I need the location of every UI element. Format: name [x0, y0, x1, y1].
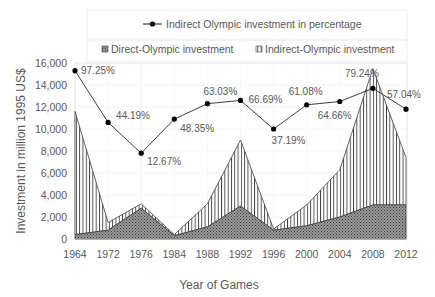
x-tick-label: 1996	[262, 248, 286, 260]
circle-marker-icon	[150, 21, 155, 26]
data-label: 63.03%	[203, 86, 237, 97]
legend: Indirect Olympic investment in percentag…	[87, 10, 407, 61]
y-tick-label: 6,000	[41, 167, 67, 179]
x-tick-label: 2000	[295, 248, 319, 260]
x-tick-label: 1984	[163, 248, 187, 260]
data-point-marker	[205, 101, 210, 106]
y-axis-ticks: 02,0004,0006,0008,00010,00012,00014,0001…	[35, 57, 67, 245]
y-axis-title: Investment in million 1995 US$	[14, 68, 28, 234]
x-tick-label: 2004	[328, 248, 352, 260]
data-label: 61.08%	[289, 86, 323, 97]
crosshatch-swatch-icon	[102, 46, 108, 52]
data-label: 44.19%	[116, 110, 150, 121]
legend-line-label: Indirect Olympic investment in percentag…	[166, 18, 362, 30]
data-point-marker	[139, 151, 144, 156]
data-label: 97.25%	[81, 65, 115, 76]
data-point-marker	[106, 120, 111, 125]
y-tick-label: 14,000	[35, 79, 67, 91]
legend-item-direct[interactable]: Direct-Olympic investment	[102, 43, 234, 55]
y-tick-label: 16,000	[35, 57, 67, 69]
y-tick-label: 8,000	[41, 145, 67, 157]
x-tick-label: 1992	[229, 248, 253, 260]
x-tick-label: 2012	[394, 248, 418, 260]
y-tick-label: 2,000	[41, 211, 67, 223]
data-label: 12.67%	[147, 156, 181, 167]
y-tick-label: 12,000	[35, 101, 67, 113]
x-axis-ticks: 1964197219761984198819921996200020042008…	[63, 248, 418, 260]
legend-item-indirect[interactable]: Indirect-Olympic investment	[256, 43, 395, 55]
data-label: 37.19%	[272, 135, 306, 146]
data-label: 66.69%	[249, 94, 283, 105]
data-point-marker	[172, 117, 177, 122]
data-point-marker	[337, 99, 342, 104]
data-point-marker	[271, 126, 276, 131]
data-point-marker	[238, 98, 243, 103]
y-tick-label: 0	[61, 233, 67, 245]
x-tick-label: 1964	[63, 248, 87, 260]
legend-direct-label: Direct-Olympic investment	[111, 43, 234, 55]
x-tick-label: 1972	[96, 248, 120, 260]
data-point-marker	[370, 86, 375, 91]
legend-indirect-label: Indirect-Olympic investment	[265, 43, 395, 55]
data-point-marker	[403, 107, 408, 112]
data-point-marker	[304, 102, 309, 107]
y-tick-label: 4,000	[41, 189, 67, 201]
data-label: 64.66%	[318, 110, 352, 121]
x-tick-label: 1988	[196, 248, 220, 260]
data-point-marker	[72, 68, 77, 73]
y-tick-label: 10,000	[35, 123, 67, 135]
data-label: 57.04%	[387, 89, 421, 100]
data-label: 48.35%	[180, 123, 214, 134]
vertical-lines-swatch-icon	[256, 46, 262, 52]
x-tick-label: 1976	[130, 248, 154, 260]
data-label: 79.24%	[345, 68, 379, 79]
x-axis-title: Year of Games	[179, 278, 259, 292]
x-tick-label: 2008	[361, 248, 385, 260]
legend-item-line[interactable]: Indirect Olympic investment in percentag…	[143, 18, 362, 30]
chart: Indirect Olympic investment in percentag…	[0, 0, 435, 297]
